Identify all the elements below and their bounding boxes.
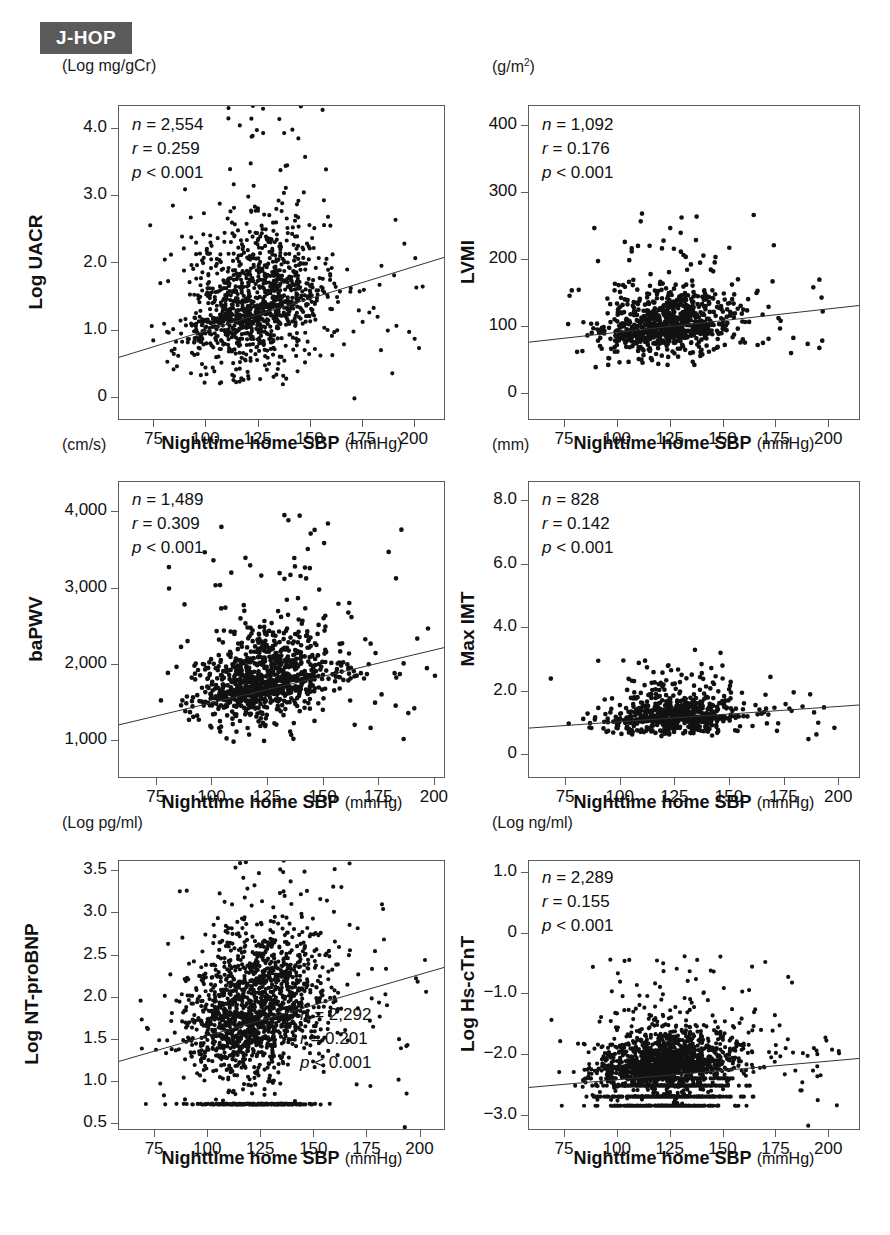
stat-p-bapwv: p < 0.001 (132, 536, 203, 560)
y-tick-uacr (111, 262, 118, 263)
y-tick-uacr (111, 397, 118, 398)
x-tick-maximt (838, 778, 839, 785)
x-tick-maximt (784, 778, 785, 785)
study-badge: J-HOP (40, 22, 132, 54)
panel-log-uacr: (Log mg/gCr)01.02.03.04.0751001251501752… (0, 55, 450, 455)
y-tick-hsctnt (521, 1115, 528, 1116)
panel-lvmi: (g/m2)010020030040075100125150175200LVMI… (450, 55, 890, 455)
x-tick-ntprobnp (260, 1130, 261, 1137)
stat-n-hsctnt: n = 2,289 (542, 866, 613, 890)
stat-p-maximt: p < 0.001 (542, 536, 613, 560)
x-tick-hsctnt (828, 1130, 829, 1137)
x-tick-bapwv (378, 778, 379, 785)
x-tick-ntprobnp (366, 1130, 367, 1137)
y-axis-title-uacr: Log UACR (25, 177, 47, 347)
y-tick-label-ntprobnp: 0.5 (39, 1112, 107, 1132)
y-tick-label-maximt: 0 (449, 743, 517, 763)
y-tick-maximt (521, 754, 528, 755)
x-tick-lvmi (775, 420, 776, 427)
y-tick-label-ntprobnp: 2.0 (39, 986, 107, 1006)
x-tick-lvmi (723, 420, 724, 427)
stat-n-uacr: n = 2,554 (132, 113, 203, 137)
stat-n-bapwv: n = 1,489 (132, 488, 203, 512)
y-tick-hsctnt (521, 872, 528, 873)
y-tick-bapwv (111, 511, 118, 512)
y-tick-uacr (111, 330, 118, 331)
stat-p-ntprobnp: p < 0.001 (300, 1051, 371, 1075)
stat-r-uacr: r = 0.259 (132, 137, 203, 161)
stats-annotation-maximt: n = 828r = 0.142p < 0.001 (542, 488, 613, 560)
y-tick-lvmi (521, 326, 528, 327)
x-tick-maximt (674, 778, 675, 785)
panel-log-nt-probnp: (Log pg/ml)0.51.01.52.02.53.03.575100125… (0, 808, 450, 1218)
y-tick-label-hsctnt: −3.0 (449, 1104, 517, 1124)
x-tick-lvmi (670, 420, 671, 427)
y-tick-label-lvmi: 300 (449, 181, 517, 201)
x-tick-hsctnt (775, 1130, 776, 1137)
panel-log-hs-ctnt: (Log ng/ml)−3.0−2.0−1.001.07510012515017… (450, 808, 890, 1218)
x-tick-maximt (620, 778, 621, 785)
x-tick-lvmi (564, 420, 565, 427)
x-tick-ntprobnp (207, 1130, 208, 1137)
y-tick-label-bapwv: 4,000 (39, 500, 107, 520)
y-axis-title-lvmi: LVMI (457, 202, 479, 322)
y-tick-ntprobnp (111, 912, 118, 913)
stat-r-maximt: r = 0.142 (542, 512, 613, 536)
y-tick-bapwv (111, 588, 118, 589)
y-tick-maximt (521, 627, 528, 628)
y-tick-lvmi (521, 192, 528, 193)
x-tick-lvmi (828, 420, 829, 427)
x-tick-ntprobnp (420, 1130, 421, 1137)
x-tick-ntprobnp (313, 1130, 314, 1137)
y-tick-label-bapwv: 3,000 (39, 577, 107, 597)
panel-bapwv: (cm/s)1,0002,0003,0004,00075100125150175… (0, 430, 450, 830)
y-axis-title-hsctnt: Log Hs-cTnT (457, 889, 479, 1099)
x-tick-bapwv (211, 778, 212, 785)
x-tick-bapwv (434, 778, 435, 785)
x-tick-uacr (205, 420, 206, 427)
x-tick-uacr (310, 420, 311, 427)
x-tick-hsctnt (617, 1130, 618, 1137)
x-axis-title-hsctnt: Nighttime home SBP (mmHg) (484, 1148, 890, 1169)
stat-p-uacr: p < 0.001 (132, 161, 203, 185)
stat-p-hsctnt: p < 0.001 (542, 914, 613, 938)
y-tick-lvmi (521, 125, 528, 126)
y-tick-bapwv (111, 740, 118, 741)
y-tick-hsctnt (521, 993, 528, 994)
x-tick-uacr (414, 420, 415, 427)
stat-n-lvmi: n = 1,092 (542, 113, 613, 137)
stat-n-maximt: n = 828 (542, 488, 613, 512)
x-tick-bapwv (156, 778, 157, 785)
x-tick-bapwv (267, 778, 268, 785)
scatter-points-bapwv (0, 430, 450, 830)
y-tick-label-ntprobnp: 1.5 (39, 1028, 107, 1048)
y-tick-label-ntprobnp: 3.5 (39, 859, 107, 879)
y-tick-maximt (521, 564, 528, 565)
stats-annotation-ntprobnp: n = 2,292r = 0.201p < 0.001 (300, 1003, 371, 1075)
x-axis-title-ntprobnp: Nighttime home SBP (mmHg) (72, 1148, 492, 1169)
x-tick-hsctnt (723, 1130, 724, 1137)
y-tick-hsctnt (521, 1054, 528, 1055)
stats-annotation-hsctnt: n = 2,289r = 0.155p < 0.001 (542, 866, 613, 938)
y-tick-label-ntprobnp: 3.0 (39, 901, 107, 921)
y-tick-ntprobnp (111, 997, 118, 998)
y-tick-ntprobnp (111, 1081, 118, 1082)
stat-n-ntprobnp: n = 2,292 (300, 1003, 371, 1027)
y-axis-title-bapwv: baPWV (25, 554, 47, 704)
y-axis-title-ntprobnp: Log NT-proBNP (21, 879, 43, 1109)
y-tick-label-uacr: 2.0 (39, 252, 107, 272)
stats-annotation-lvmi: n = 1,092r = 0.176p < 0.001 (542, 113, 613, 185)
x-tick-hsctnt (670, 1130, 671, 1137)
y-tick-bapwv (111, 664, 118, 665)
x-tick-bapwv (323, 778, 324, 785)
x-tick-lvmi (617, 420, 618, 427)
y-tick-label-uacr: 1.0 (39, 319, 107, 339)
panel-max-imt: (mm)02.04.06.08.075100125150175200Max IM… (450, 430, 890, 830)
stat-r-bapwv: r = 0.309 (132, 512, 203, 536)
y-tick-lvmi (521, 393, 528, 394)
y-tick-label-bapwv: 1,000 (39, 729, 107, 749)
y-tick-ntprobnp (111, 870, 118, 871)
y-tick-ntprobnp (111, 1039, 118, 1040)
stats-annotation-bapwv: n = 1,489r = 0.309p < 0.001 (132, 488, 203, 560)
y-tick-label-ntprobnp: 1.0 (39, 1070, 107, 1090)
